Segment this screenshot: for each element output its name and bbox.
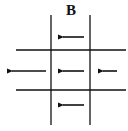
arrows bbox=[12, 37, 117, 105]
caption-fragment bbox=[0, 126, 128, 131]
grid-lines bbox=[16, 15, 126, 125]
grid-diagram bbox=[0, 0, 128, 131]
